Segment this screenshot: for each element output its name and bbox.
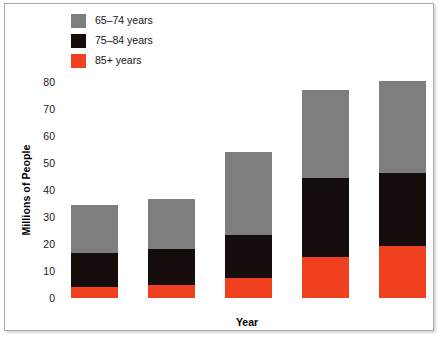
y-axis-tick-label: 60 xyxy=(43,130,55,142)
y-axis-title: Millions of People xyxy=(17,82,35,298)
bar-2040[interactable] xyxy=(302,90,349,298)
bar-2020[interactable] xyxy=(225,152,272,298)
y-axis-tick-label: 50 xyxy=(43,157,55,169)
bar-segment[interactable] xyxy=(71,287,118,298)
bar-segment[interactable] xyxy=(225,235,272,278)
y-axis-tick-label: 20 xyxy=(43,238,55,250)
legend-item: 65–74 years xyxy=(71,11,271,30)
bar-segment[interactable] xyxy=(302,257,349,298)
bar-2050[interactable] xyxy=(379,81,426,298)
legend-swatch-85-plus xyxy=(71,54,86,68)
bar-segment[interactable] xyxy=(148,249,195,285)
legend-label-65-74: 65–74 years xyxy=(95,15,153,26)
bar-segment[interactable] xyxy=(225,152,272,235)
legend-label-85-plus: 85+ years xyxy=(95,55,141,66)
legend-label-75-84: 75–84 years xyxy=(95,35,153,46)
bar-2005[interactable] xyxy=(148,199,195,298)
bar-segment[interactable] xyxy=(379,173,426,246)
bar-segment[interactable] xyxy=(379,81,426,173)
legend-item: 85+ years xyxy=(71,51,271,70)
bar-segment[interactable] xyxy=(302,90,349,178)
chart-legend: 65–74 years 75–84 years 85+ years xyxy=(71,11,271,71)
legend-swatch-75-84 xyxy=(71,34,86,48)
y-axis-tick-label: 0 xyxy=(49,292,55,304)
bar-segment[interactable] xyxy=(71,205,118,253)
bar-segment[interactable] xyxy=(148,199,195,249)
y-axis-tick-label: 30 xyxy=(43,211,55,223)
y-axis-tick-label: 70 xyxy=(43,103,55,115)
bar-2000[interactable] xyxy=(71,205,118,298)
y-axis-tick-label: 10 xyxy=(43,265,55,277)
x-axis-title: Year xyxy=(62,316,432,328)
y-axis-tick-label: 80 xyxy=(43,76,55,88)
bar-segment[interactable] xyxy=(302,178,349,257)
bar-segment[interactable] xyxy=(225,278,272,298)
bar-segment[interactable] xyxy=(71,253,118,287)
legend-swatch-65-74 xyxy=(71,14,86,28)
figure: 65–74 years 75–84 years 85+ years Millio… xyxy=(0,0,445,339)
bar-segment[interactable] xyxy=(148,285,195,298)
legend-item: 75–84 years xyxy=(71,31,271,50)
plot-area: 0102030405060708020002005202020402050 xyxy=(62,82,434,298)
bar-segment[interactable] xyxy=(379,246,426,298)
y-axis-tick-label: 40 xyxy=(43,184,55,196)
